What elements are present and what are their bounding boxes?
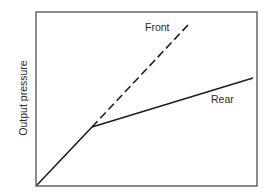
- rear-series-label: Rear: [211, 93, 234, 105]
- y-axis-label: Output pressure: [17, 60, 29, 135]
- common-segment: [37, 127, 92, 185]
- front-series-label: Front: [145, 21, 170, 33]
